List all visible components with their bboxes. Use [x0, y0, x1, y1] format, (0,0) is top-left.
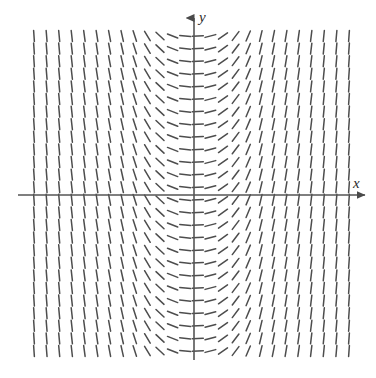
slope-tick [285, 43, 287, 54]
slope-tick [84, 31, 85, 42]
slope-tick [232, 309, 239, 318]
slope-tick [349, 157, 350, 168]
slope-tick [109, 308, 111, 319]
slope-tick [84, 81, 85, 92]
slope-tick [167, 34, 177, 38]
slope-tick [246, 56, 250, 66]
slope-tick [96, 119, 98, 130]
slope-tick [167, 299, 177, 303]
slope-tick [133, 346, 136, 356]
slope-tick [84, 333, 85, 344]
slope-tick [156, 246, 164, 254]
slope-tick [34, 56, 35, 67]
slope-tick [167, 122, 177, 126]
slope-tick [133, 94, 136, 104]
slope-tick [311, 131, 312, 142]
slope-tick [180, 325, 191, 326]
slope-tick [71, 31, 72, 42]
slope-tick [145, 245, 151, 254]
slope-tick [96, 106, 98, 117]
slope-field-canvas [0, 0, 376, 378]
slope-tick [34, 207, 35, 218]
slope-tick [336, 56, 337, 67]
slope-tick [219, 310, 228, 316]
slope-tick [121, 43, 123, 54]
slope-tick [59, 308, 60, 319]
slope-tick [156, 146, 164, 154]
slope-tick [180, 338, 191, 339]
slope-tick [156, 32, 164, 40]
slope-tick [96, 283, 98, 294]
slope-tick [59, 346, 60, 357]
slope-tick [180, 237, 191, 238]
slope-tick [84, 56, 85, 67]
slope-tick [46, 56, 47, 67]
slope-tick [180, 250, 191, 251]
slope-tick [46, 31, 47, 42]
slope-tick [180, 124, 191, 125]
slope-tick [46, 119, 47, 130]
slope-tick [145, 308, 151, 317]
slope-tick [167, 210, 177, 214]
slope-tick [323, 232, 324, 243]
slope-tick [349, 232, 350, 243]
slope-tick [323, 295, 324, 306]
slope-tick [272, 333, 274, 344]
slope-tick [121, 81, 123, 92]
slope-tick [84, 43, 85, 54]
slope-tick [349, 207, 350, 218]
slope-tick [219, 134, 228, 140]
slope-tick [34, 257, 35, 268]
slope-tick [145, 132, 151, 141]
slope-tick [121, 157, 123, 168]
slope-tick [34, 283, 35, 294]
slope-tick [109, 320, 111, 331]
slope-tick [59, 283, 60, 294]
slope-tick [246, 296, 250, 306]
slope-tick [46, 131, 47, 142]
slope-tick [133, 31, 136, 41]
slope-tick [311, 295, 312, 306]
slope-tick [336, 232, 337, 243]
slope-tick [34, 94, 35, 105]
slope-tick [336, 144, 337, 155]
slope-tick [205, 148, 216, 151]
slope-tick [336, 68, 337, 79]
slope-tick [260, 207, 263, 218]
slope-tick [205, 173, 216, 176]
slope-tick [285, 257, 287, 268]
slope-tick [205, 186, 216, 189]
slope-tick [34, 157, 35, 168]
slope-tick [219, 348, 228, 354]
slope-tick [323, 119, 324, 130]
slope-tick [59, 295, 60, 306]
slope-tick [180, 287, 191, 288]
slope-tick [246, 94, 250, 104]
slope-tick [109, 295, 111, 306]
slope-tick [311, 220, 312, 231]
slope-tick [246, 308, 250, 318]
x-axis-label: x [353, 176, 360, 191]
slope-tick [272, 157, 274, 168]
slope-tick [205, 98, 216, 101]
slope-tick [323, 131, 324, 142]
slope-tick [323, 68, 324, 79]
slope-tick [260, 157, 263, 168]
slope-tick [205, 249, 216, 252]
slope-tick [323, 194, 324, 205]
slope-tick [323, 207, 324, 218]
slope-tick [272, 43, 274, 54]
slope-tick [336, 106, 337, 117]
slope-tick [336, 157, 337, 168]
slope-tick [205, 350, 216, 353]
slope-tick [298, 220, 300, 231]
slope-tick [71, 81, 72, 92]
slope-tick [311, 94, 312, 105]
slope-tick [298, 81, 300, 92]
slope-tick [180, 111, 191, 112]
slope-tick [311, 81, 312, 92]
slope-tick [298, 144, 300, 155]
slope-tick [323, 220, 324, 231]
slope-tick [145, 145, 151, 154]
slope-tick [219, 285, 228, 291]
